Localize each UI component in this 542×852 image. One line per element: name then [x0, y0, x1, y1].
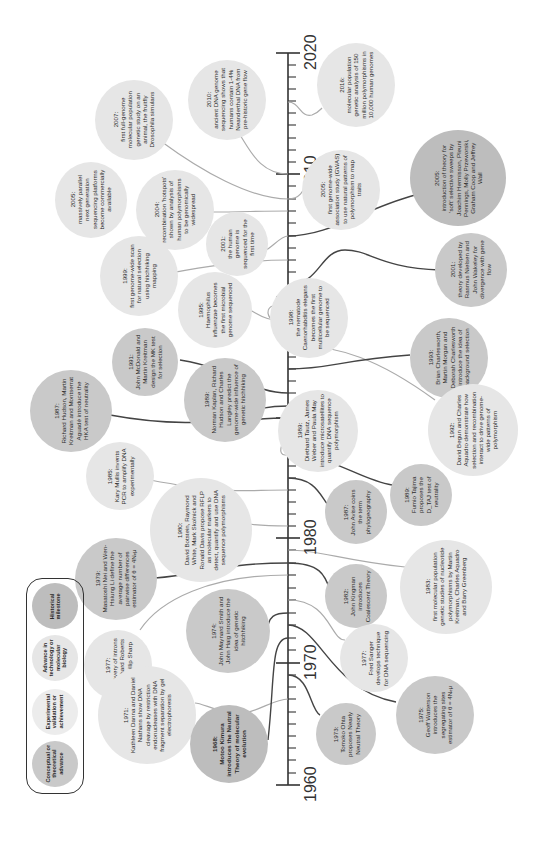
event-1971: 1971:Kathleen Danna and Daniel Nathans s… — [98, 666, 196, 764]
event-1987-hka: 1987:Richard Hudson, Martin Kreitman and… — [30, 370, 112, 452]
event-2001-nielsen: 2001:theory developed by Rasmus Nielsen … — [435, 233, 507, 307]
event-1979: 1979:Masatoshi Nei and Wen-Hsiung Li def… — [75, 538, 157, 620]
event-1977-sanger: 1977:Fred Sanger develops technique for … — [340, 624, 408, 692]
event-1980: 1980:David Botstein, Raymond White, Mark… — [150, 478, 252, 582]
event-2016: 2016:molecular population genetic analys… — [317, 43, 395, 127]
year-label-1960: 1960 — [302, 766, 320, 802]
legend-technology-advance: Advance in technology or molecular biolo… — [32, 635, 78, 681]
event-2007: 2007:first full-genome molecular populat… — [95, 80, 173, 160]
event-1974: 1974:John Maynard Smith and John Haig in… — [186, 589, 270, 673]
timeline-diagram: 2020 2010 2000 1990 1980 1970 1960 2016:… — [0, 0, 542, 852]
event-1989-dietrich: 1989:Diethard Tautz, James Weber and Pau… — [278, 390, 358, 472]
legend-experimental-validation: Experimental validation or achievement — [32, 689, 78, 735]
event-1995: 1995:Haemophilus influenzae becomes the … — [178, 272, 252, 348]
event-1989-kaplan: 1989:Norman Kaplan, Richard Hudson and C… — [184, 358, 266, 442]
event-2005-ngs: 2005:massively parallel next generation … — [55, 162, 127, 238]
event-1998: 1998:the nematode Caenorhabditis elegans… — [270, 278, 348, 358]
event-2005-soft-sweeps: 2005:introduction of theory for 'soft' s… — [410, 130, 506, 226]
event-1999: 1999:first genome-wide scan for natural … — [100, 236, 178, 316]
event-2005-gwas: 2005:first genome-wide association study… — [302, 150, 380, 230]
legend-historical-milestone: Historical milestone — [32, 583, 78, 629]
event-1973-ohta: 1973:Tomoko Ohta proposes Nearly Neutral… — [316, 703, 376, 765]
legend: Historical milestone Advance in technolo… — [26, 578, 84, 794]
event-1987-avise: 1987:John Avise coins the term phylogeog… — [325, 480, 387, 544]
event-1982: 1982:John Kingman introduces Coalescent … — [325, 564, 387, 628]
event-1992: 1992:David Begun and Charles Aquadro dem… — [428, 384, 518, 476]
event-1975: 1975:Geoff Watterson introduces the segr… — [396, 676, 474, 754]
event-1989-tajima: 1989:Fumio Tajima proposes the D_TAJ tes… — [390, 464, 452, 526]
event-1983: 1983:first molecular population genetic … — [400, 540, 492, 634]
year-label-2020: 2020 — [302, 34, 320, 70]
event-1968: 1968:Motoo Kimura introduces the Neutral… — [190, 705, 268, 783]
event-1991: 1991:John McDonald and Martin Kreitman d… — [112, 328, 178, 396]
year-label-1970: 1970 — [302, 644, 320, 680]
event-1985: 1985:Kary Mullis invents PCR to amplify … — [86, 442, 154, 510]
legend-conceptual-advance: Conceptual or theoretical advance — [32, 741, 78, 787]
year-label-1980: 1980 — [302, 519, 320, 555]
event-2010: 2010:ancient DNA genome sequencing shows… — [188, 60, 266, 140]
event-2001-human-genome: 2001:the human genome is sequenced for t… — [206, 212, 268, 276]
